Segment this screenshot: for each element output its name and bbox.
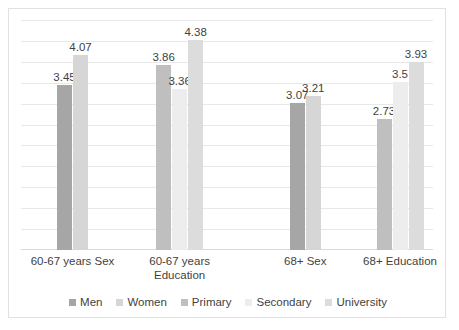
bar-value-label: 4.07	[69, 41, 91, 53]
bar-value-label: 3.93	[405, 48, 427, 60]
bar-group: 2.733.53.93	[374, 20, 426, 250]
x-axis-tick-line: 60-67 years Sex	[15, 254, 130, 268]
bar-group: 3.073.21	[288, 20, 323, 250]
bar[interactable]	[57, 85, 72, 250]
bar-column[interactable]: 3.93	[408, 20, 424, 250]
bar[interactable]	[409, 62, 424, 250]
bar-column[interactable]: 2.73	[376, 20, 392, 250]
bar-group: 3.863.364.38	[154, 20, 206, 250]
bar-value-label: 4.38	[184, 26, 206, 38]
bar-column[interactable]: 4.38	[188, 20, 204, 250]
legend-label: Women	[127, 296, 166, 309]
bar-column[interactable]: 3.45	[56, 20, 72, 250]
bar-column[interactable]: 3.36	[172, 20, 188, 250]
x-axis-tick-label: 60-67 yearsEducation	[122, 254, 237, 282]
legend-item[interactable]: Men	[69, 296, 102, 309]
legend-swatch-icon	[325, 299, 332, 306]
x-axis-tick-line: 60-67 years	[122, 254, 237, 268]
x-axis-tick-line: 68+ Education	[342, 254, 457, 268]
x-axis-tick-label: 60-67 years Sex	[15, 254, 130, 268]
chart-legend: MenWomenPrimarySecondaryUniversity	[9, 296, 447, 309]
legend-item[interactable]: Primary	[181, 296, 232, 309]
bar-value-label: 3.5	[392, 68, 408, 80]
legend-swatch-icon	[181, 299, 188, 306]
bar[interactable]	[73, 55, 88, 250]
bar-value-label: 3.21	[302, 82, 324, 94]
bar[interactable]	[377, 119, 392, 250]
legend-label: Primary	[192, 296, 232, 309]
legend-swatch-icon	[116, 299, 123, 306]
chart-container: 3.454.073.863.364.383.073.212.733.53.93 …	[8, 8, 446, 318]
bar[interactable]	[172, 89, 187, 250]
bar-group: 3.454.07	[55, 20, 90, 250]
bar[interactable]	[306, 96, 321, 250]
x-axis-labels: 60-67 years Sex60-67 yearsEducation68+ S…	[21, 254, 433, 294]
legend-item[interactable]: University	[325, 296, 386, 309]
legend-item[interactable]: Women	[116, 296, 166, 309]
plot-area: 3.454.073.863.364.383.073.212.733.53.93	[21, 20, 433, 250]
bar-column[interactable]: 4.07	[72, 20, 88, 250]
legend-item[interactable]: Secondary	[245, 296, 311, 309]
x-axis-tick-label: 68+ Education	[342, 254, 457, 268]
bar-column[interactable]: 3.07	[289, 20, 305, 250]
legend-swatch-icon	[69, 299, 76, 306]
legend-swatch-icon	[245, 299, 252, 306]
x-axis-tick-line: Education	[122, 268, 237, 282]
legend-label: Secondary	[256, 296, 311, 309]
bar[interactable]	[188, 40, 203, 250]
bar-column[interactable]: 3.86	[156, 20, 172, 250]
bar-column[interactable]: 3.21	[305, 20, 321, 250]
bar[interactable]	[290, 103, 305, 250]
bar[interactable]	[393, 82, 408, 250]
legend-label: Men	[80, 296, 102, 309]
legend-label: University	[336, 296, 386, 309]
bar-series-layer: 3.454.073.863.364.383.073.212.733.53.93	[21, 20, 433, 250]
bar[interactable]	[156, 65, 171, 250]
